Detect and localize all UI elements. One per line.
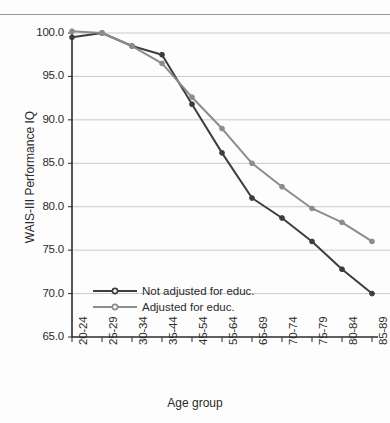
gridlines: [72, 33, 390, 294]
series-line: [72, 31, 372, 241]
legend-label-adjusted: Adjusted for educ.: [142, 301, 235, 313]
data-point: [340, 220, 345, 225]
data-point: [310, 239, 315, 244]
series-adjusted: [70, 29, 375, 244]
data-point: [250, 161, 255, 166]
data-point: [190, 95, 195, 100]
data-point: [160, 52, 165, 57]
legend-swatch-marker: [112, 304, 117, 309]
data-point: [130, 44, 135, 49]
legend-swatch-marker: [112, 288, 117, 293]
data-point: [160, 61, 165, 66]
data-point: [70, 35, 75, 40]
data-point: [310, 206, 315, 211]
data-point: [250, 196, 255, 201]
plot-area: [0, 0, 390, 423]
legend-label-not-adjusted: Not adjusted for educ.: [142, 285, 255, 297]
data-point: [340, 267, 345, 272]
data-point: [370, 239, 375, 244]
data-point: [190, 102, 195, 107]
data-point: [100, 31, 105, 36]
data-point: [220, 126, 225, 131]
data-point: [280, 184, 285, 189]
data-point: [280, 216, 285, 221]
data-point: [70, 29, 75, 34]
legend-marks: [93, 288, 137, 309]
data-point: [220, 150, 225, 155]
series-layer: [70, 29, 375, 296]
data-point: [370, 291, 375, 296]
chart-figure: WAIS-III Performance IQ Age group 100.09…: [0, 0, 390, 423]
